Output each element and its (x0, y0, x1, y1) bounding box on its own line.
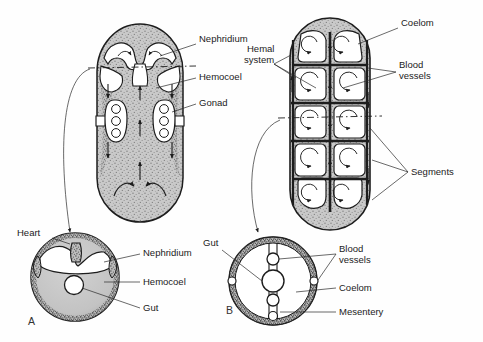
label-segments: Segments (411, 166, 454, 177)
label-blood-vessels-top-line2: vessels (399, 70, 431, 81)
label-coelom-top: Coelom (401, 17, 434, 28)
coelom-chamber (295, 68, 326, 100)
gut-a-section (65, 276, 84, 295)
coelom-chamber (295, 106, 326, 138)
label-blood-vessels-bottom-line1: Blood (339, 243, 363, 254)
panel-letter-b: B (226, 304, 233, 316)
coelom-chamber (295, 144, 326, 176)
label-blood-vessels-bottom-line2: vessels (339, 254, 371, 265)
label-blood-vessels-top-line1: Blood (399, 59, 423, 70)
label-hemal-system-line1: Hemal (247, 43, 274, 54)
ventral-blood-vessel (267, 294, 279, 306)
label-heart: Heart (17, 227, 41, 238)
heart-a-section (71, 243, 82, 262)
dorsal-blood-vessel (267, 253, 279, 265)
coelom-chamber (334, 31, 362, 62)
label-hemal-system-line2: system (244, 54, 274, 65)
label-gut-a: Gut (143, 302, 159, 313)
subneural-blood-vessel (269, 312, 278, 321)
lateral-blood-vessel-left (228, 277, 236, 285)
coelom-chamber (334, 144, 365, 176)
label-hemocoel-top: Hemocoel (199, 71, 242, 82)
gut-b-section (262, 270, 284, 292)
comparative-body-plan-diagram: A (0, 0, 483, 342)
coelom-chamber (334, 178, 362, 208)
lateral-blood-vessel-right (310, 277, 318, 285)
coelom-chamber (298, 178, 326, 208)
label-mesentery: Mesentery (339, 306, 384, 317)
label-hemocoel-section: Hemocoel (143, 276, 186, 287)
label-nephridium-top: Nephridium (199, 33, 248, 44)
label-gonad: Gonad (199, 97, 228, 108)
coelom-chamber (334, 106, 365, 138)
figure-root: A (0, 0, 483, 342)
label-gut-b: Gut (203, 237, 219, 248)
label-nephridium-section: Nephridium (143, 247, 192, 258)
coelom-chamber (298, 31, 326, 62)
panel-letter-a: A (28, 315, 35, 327)
coelom-chamber (334, 68, 365, 100)
label-coelom-bottom: Coelom (339, 282, 372, 293)
